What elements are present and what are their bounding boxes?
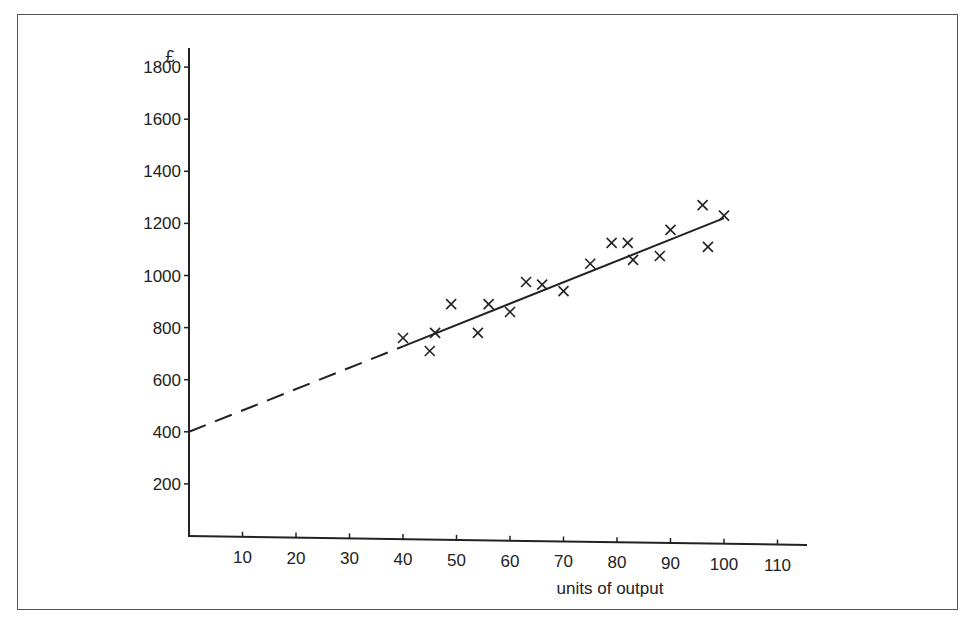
data-point-marker (623, 238, 633, 248)
x-tick-label: 50 (447, 551, 466, 570)
data-point-marker (446, 299, 456, 309)
x-tick-label: 60 (501, 552, 520, 571)
data-points (398, 200, 729, 356)
x-tick-label: 70 (554, 552, 573, 571)
data-point-marker (425, 346, 435, 356)
y-tick-label: 1600 (143, 110, 181, 129)
data-point-marker (628, 255, 638, 265)
x-tick-label: 10 (233, 548, 252, 567)
data-point-marker (607, 238, 617, 248)
x-tick-label: 90 (661, 554, 680, 573)
y-tick-label: 400 (153, 423, 181, 442)
data-point-marker (505, 307, 515, 317)
x-axis-line (188, 536, 807, 545)
x-axis-title: units of output (557, 579, 664, 598)
y-tick-label: 200 (153, 475, 181, 494)
data-point-marker (521, 277, 531, 287)
data-point-marker (655, 251, 665, 261)
fit-line-extrapolated (189, 346, 403, 431)
x-tick-label: 20 (287, 549, 306, 568)
x-tick-label: 40 (394, 550, 413, 569)
data-point-marker (398, 333, 408, 343)
data-point-marker (703, 242, 713, 252)
x-tick-label: 110 (764, 556, 791, 575)
data-point-marker (473, 328, 483, 338)
y-tick-label: 1200 (143, 214, 181, 233)
data-point-marker (666, 225, 676, 235)
data-point-marker (698, 200, 708, 210)
y-tick-label: 800 (153, 319, 181, 338)
data-point-marker (585, 259, 595, 269)
x-tick-label: 80 (608, 553, 627, 572)
fit-line-solid (403, 218, 724, 346)
y-tick-label: 1400 (143, 162, 181, 181)
data-point-marker (484, 299, 494, 309)
data-point-marker (559, 286, 569, 296)
x-tick-label: 100 (710, 555, 738, 574)
y-axis-title: £ (165, 47, 175, 66)
x-axis: 102030405060708090100110 (188, 532, 807, 575)
y-axis: 20040060080010001200140016001800 (143, 48, 189, 537)
x-tick-label: 30 (340, 549, 359, 568)
scatter-chart: 20040060080010001200140016001800 1020304… (0, 0, 964, 630)
y-tick-label: 1000 (143, 267, 181, 286)
data-point-marker (537, 280, 547, 290)
y-tick-label: 600 (153, 371, 181, 390)
fit-line (189, 218, 724, 432)
y-tick-label: 1800 (143, 58, 181, 77)
